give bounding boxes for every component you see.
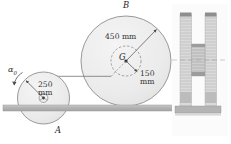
center-g-label: G (119, 53, 126, 62)
wheel-b-label: B (123, 1, 129, 10)
ground-surface (3, 105, 173, 111)
alpha-subscript: 0 (14, 70, 17, 76)
photo-left-lower-band (180, 92, 192, 103)
photo-base-plate (175, 106, 221, 113)
photo-spool-bottom-flange (192, 72, 206, 76)
angular-acceleration-label: α0 (8, 65, 17, 76)
angular-acceleration-arrowhead (12, 82, 16, 86)
photo-base-shadow (175, 113, 221, 116)
photo-left-top-cap (180, 13, 192, 17)
photo-right-lower-band (205, 92, 217, 103)
photo-inset-group (172, 4, 228, 136)
wheel-a-label: A (55, 126, 61, 135)
dimension-label-250mm-line2: mm (38, 89, 52, 97)
mechanics-figure: B 450 mm G 150 mm 250 mm α0 A (0, 0, 231, 144)
dimension-label-450mm: 450 mm (105, 33, 136, 41)
photo-spool-top-flange (192, 44, 206, 47)
figure-canvas (0, 0, 231, 144)
dimension-label-150mm-line2: mm (140, 78, 154, 86)
photo-right-top-cap (205, 13, 217, 17)
